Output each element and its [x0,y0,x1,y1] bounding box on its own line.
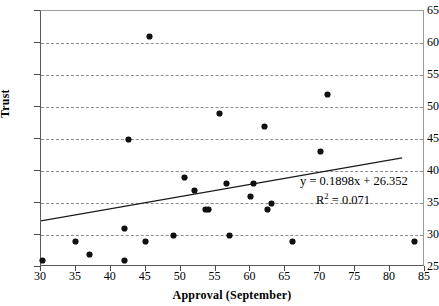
x-tick-label-35: 35 [69,270,81,282]
x-tick-mark-80 [389,266,390,271]
x-tick-mark-65 [284,266,285,271]
data-point [318,149,323,154]
r2-value: = 0.071 [329,193,370,207]
scatter-chart: Trust 253035404550556065 303540455055606… [0,0,439,306]
x-tick-label-65: 65 [278,270,290,282]
data-point [182,175,187,180]
x-tick-mark-35 [75,266,76,271]
data-point [73,239,78,244]
x-tick-label-40: 40 [104,270,116,282]
data-point [269,201,274,206]
x-tick-label-55: 55 [209,270,221,282]
x-tick-mark-30 [40,266,41,271]
regression-annotation: y = 0.1898x + 26.352 R2 = 0.071 [300,174,408,208]
data-point [171,233,176,238]
x-tick-mark-40 [110,266,111,271]
gridline-y-60 [41,43,423,44]
data-point [192,188,197,193]
x-tick-label-70: 70 [313,270,325,282]
gridline-y-40 [41,171,423,172]
trendline [41,11,423,266]
data-point [412,239,417,244]
data-point [325,92,330,97]
data-point [122,258,127,263]
gridline-y-55 [41,75,423,76]
x-tick-label-80: 80 [383,270,395,282]
gridline-y-50 [41,107,423,108]
data-point [290,239,295,244]
x-tick-mark-50 [180,266,181,271]
x-tick-mark-75 [354,266,355,271]
data-point [143,239,148,244]
x-tick-mark-45 [145,266,146,271]
x-tick-label-85: 85 [418,270,430,282]
x-tick-label-75: 75 [348,270,360,282]
data-point [126,137,131,142]
data-point [206,207,211,212]
data-point [40,258,45,263]
data-point [87,252,92,257]
x-tick-label-45: 45 [139,270,151,282]
y-axis-title: Trust [0,89,13,118]
x-axis-title: Approval (September) [40,288,424,303]
data-point [265,207,270,212]
x-tick-mark-85 [424,266,425,271]
data-point [248,194,253,199]
gridline-y-45 [41,139,423,140]
x-tick-mark-55 [215,266,216,271]
x-tick-label-30: 30 [34,270,46,282]
gridlines [41,11,423,265]
x-tick-label-50: 50 [174,270,186,282]
x-tick-label-60: 60 [243,270,255,282]
data-point [227,233,232,238]
data-point [251,181,256,186]
data-point [262,124,267,129]
regression-equation: y = 0.1898x + 26.352 [300,174,408,189]
x-tick-mark-70 [319,266,320,271]
plot-area [40,10,424,266]
data-point [224,181,229,186]
data-point [122,226,127,231]
data-point [217,111,222,116]
data-point [147,34,152,39]
x-tick-mark-60 [249,266,250,271]
gridline-y-30 [41,235,423,236]
regression-r-squared: R2 = 0.071 [300,189,408,208]
